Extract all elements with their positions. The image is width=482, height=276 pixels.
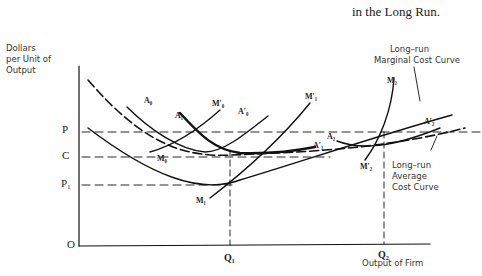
label-a1: A₁ [175, 111, 183, 120]
y-tick-p: P [62, 123, 68, 135]
lrac-annotation-line: Average [392, 171, 439, 182]
lrac-pointer [431, 136, 437, 150]
label-a1-prime: A′₁ [313, 141, 323, 150]
lrmc-annotation-line: Long–run [374, 44, 460, 55]
lrac-annotation: Long–run Average Cost Curve [392, 160, 439, 193]
m2-curve [365, 78, 394, 160]
label-m1-prime: M′₁ [305, 92, 317, 101]
m0-curve [150, 110, 220, 152]
a2-curve [337, 128, 440, 146]
lrac-annotation-line: Long–run [392, 160, 439, 171]
y-tick-c: C [62, 149, 69, 161]
label-a0-prime: A′₀ [238, 107, 248, 116]
label-m0: M₀ [157, 154, 167, 163]
y-tick-p1: P₁ [61, 177, 71, 189]
label-a2-prime: A′₂ [424, 117, 434, 126]
cost-curves-diagram: in the Long Run. Dollars per Unit of Out… [0, 0, 482, 276]
lrac-curve [88, 80, 465, 155]
label-a2: A₂ [327, 132, 335, 141]
label-a0: A₀ [144, 96, 152, 105]
origin-label: O [67, 238, 75, 250]
label-m0-prime: M′₀ [212, 99, 224, 108]
label-m2-prime: M′₂ [360, 162, 372, 171]
lrmc-pointer [414, 67, 420, 101]
x-axis-label: Output of Firm [362, 258, 423, 268]
label-m2: M₂ [387, 76, 397, 85]
label-m1: M₁ [196, 196, 206, 205]
lrac-annotation-line: Cost Curve [392, 182, 439, 193]
diagram-svg [0, 0, 482, 276]
a1-curve [180, 113, 315, 153]
lrmc-annotation: Long–run Marginal Cost Curve [374, 44, 460, 66]
x-tick-q1: Q₁ [224, 252, 235, 263]
lrmc-annotation-line: Marginal Cost Curve [374, 55, 460, 66]
x-axis [79, 244, 430, 246]
